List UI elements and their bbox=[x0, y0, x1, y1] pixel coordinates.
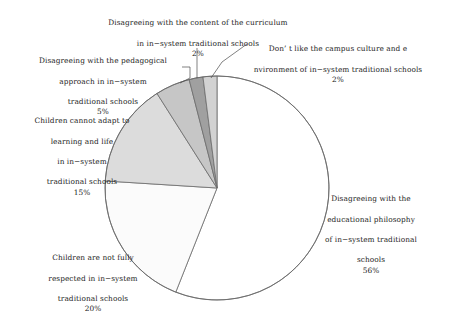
callout-adapt-line2: learning and life bbox=[51, 137, 114, 146]
callout-respected-line1: Children are not fully bbox=[52, 253, 134, 262]
callout-philosophy-pct: 56% bbox=[300, 266, 442, 276]
callout-campus-line1: Don’ t like the campus culture and e bbox=[269, 44, 407, 53]
callout-philosophy-line3: of in−system traditional bbox=[325, 235, 417, 244]
callout-adapt-line1: Children cannot adapt to bbox=[35, 116, 130, 125]
callout-philosophy-line1: Disagreeing with the bbox=[331, 194, 411, 203]
callout-philosophy-line4: schools bbox=[357, 255, 385, 264]
callout-pedagogical-line3: traditional schools bbox=[68, 97, 138, 106]
callout-label-philosophy: Disagreeing with the educational philoso… bbox=[300, 184, 442, 286]
callout-curriculum-line1: Disagreeing with the content of the curr… bbox=[108, 18, 287, 27]
callout-adapt-line3: in in−system bbox=[57, 157, 107, 166]
callout-philosophy-line2: educational philosophy bbox=[327, 215, 415, 224]
callout-respected-line2: respected in in−system bbox=[48, 274, 137, 283]
callout-pedagogical-line2: approach in in−system bbox=[59, 77, 146, 86]
callout-respected-line3: traditional schools bbox=[58, 294, 128, 303]
callout-adapt-pct: 15% bbox=[8, 188, 156, 198]
pie-chart-figure: Disagreeing with the content of the curr… bbox=[0, 0, 449, 316]
callout-label-adapt: Children cannot adapt to learning and li… bbox=[8, 106, 156, 208]
callout-pedagogical-line1: Disagreeing with the pedagogical bbox=[39, 56, 167, 65]
callout-label-campus: Don’ t like the campus culture and e nvi… bbox=[232, 34, 444, 95]
callout-campus-pct: 2% bbox=[232, 75, 444, 85]
callout-campus-line2: nvironment of in−system traditional scho… bbox=[254, 65, 422, 74]
callout-adapt-line4: traditional schools bbox=[47, 177, 117, 186]
callout-respected-pct: 20% bbox=[18, 304, 168, 314]
callout-label-respected: Children are not fully respected in in−s… bbox=[18, 243, 168, 316]
